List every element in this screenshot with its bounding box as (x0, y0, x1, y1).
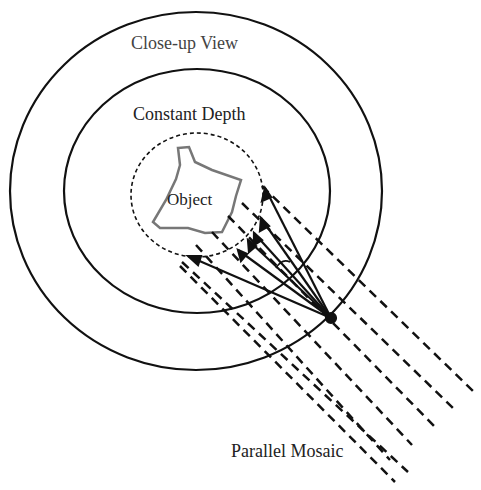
close-up-view-label: Close-up View (131, 33, 238, 54)
constant-depth-label: Constant Depth (133, 104, 246, 125)
diagram-canvas (0, 0, 481, 490)
object-label: Object (167, 190, 212, 210)
parallel-mosaic-label: Parallel Mosaic (231, 441, 343, 462)
